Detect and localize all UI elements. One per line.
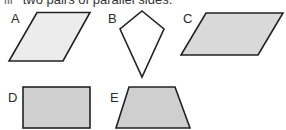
label-d: D bbox=[8, 90, 17, 105]
shape-c-parallelogram bbox=[181, 13, 283, 55]
shapes-figure bbox=[0, 0, 286, 130]
label-c: C bbox=[183, 11, 192, 26]
shape-e-trapezium bbox=[116, 87, 190, 128]
shape-a-parallelogram bbox=[9, 13, 90, 62]
shape-b-kite bbox=[120, 11, 164, 77]
label-a: A bbox=[11, 11, 20, 26]
label-b: B bbox=[108, 11, 117, 26]
shape-d-rectangle bbox=[23, 87, 90, 128]
label-e: E bbox=[110, 90, 119, 105]
